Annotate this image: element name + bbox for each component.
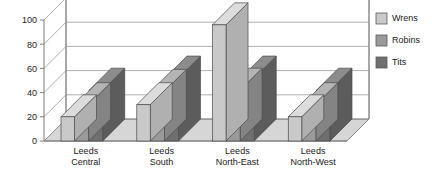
legend-swatch-icon: [376, 35, 387, 46]
legend-item-robins[interactable]: Robins: [376, 35, 421, 46]
x-category-label: South: [150, 157, 174, 167]
x-category-label: Leeds: [225, 146, 250, 156]
y-tick-label: 80: [27, 40, 37, 50]
legend-item-tits[interactable]: Tits: [376, 57, 407, 68]
legend-label: Tits: [392, 57, 407, 67]
x-category-label: Leeds: [74, 146, 99, 156]
y-tick-label: 0: [32, 136, 37, 146]
y-tick-label: 60: [27, 64, 37, 74]
bar-wrens-3: [213, 3, 249, 141]
x-category-label: North-East: [216, 157, 260, 167]
x-axis-category-labels: LeedsCentralLeedsSouthLeedsNorth-EastLee…: [71, 146, 336, 167]
legend: WrensRobinsTits: [376, 13, 421, 68]
bar-chart: 020406080100LeedsCentralLeedsSouthLeedsN…: [0, 0, 438, 176]
legend-label: Wrens: [392, 13, 418, 23]
legend-item-wrens[interactable]: Wrens: [376, 13, 418, 24]
x-category-label: Leeds: [301, 146, 326, 156]
legend-swatch-icon: [376, 57, 387, 68]
x-category-label: North-West: [290, 157, 336, 167]
x-category-label: Leeds: [149, 146, 174, 156]
y-tick-label: 100: [22, 15, 37, 25]
legend-label: Robins: [392, 35, 421, 45]
y-tick-label: 20: [27, 112, 37, 122]
y-axis-tick-labels: 020406080100: [22, 15, 37, 146]
y-tick-label: 40: [27, 88, 37, 98]
legend-swatch-icon: [376, 13, 387, 24]
chart-container: 020406080100LeedsCentralLeedsSouthLeedsN…: [0, 0, 438, 176]
x-category-label: Central: [71, 157, 100, 167]
